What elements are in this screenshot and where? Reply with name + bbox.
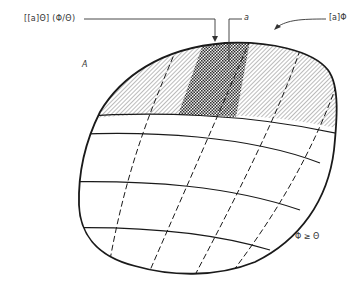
label-inequality: Φ ≥ Θ xyxy=(295,233,319,241)
leader-left xyxy=(84,19,215,40)
hatched-band xyxy=(60,0,364,134)
label-a: a xyxy=(244,14,249,22)
label-left-pointer: [[a]Θ] (Φ/Θ) xyxy=(24,15,75,23)
diagram-svg xyxy=(0,0,364,285)
diagram-canvas: [[a]Θ] (Φ/Θ) a [a]Φ A Φ ≥ Θ xyxy=(0,0,364,285)
arrowhead-left xyxy=(212,36,218,42)
leader-right xyxy=(277,19,326,27)
label-region-A: A xyxy=(82,61,87,69)
label-right-pointer: [a]Φ xyxy=(329,14,346,22)
